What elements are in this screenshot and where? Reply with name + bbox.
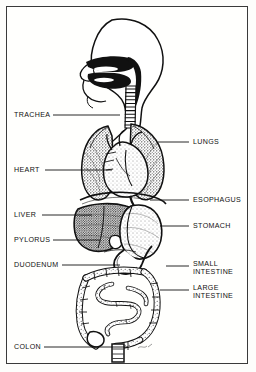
label-duodenum: DUODENUM — [14, 261, 59, 269]
label-esophagus: ESOPHAGUS — [193, 196, 241, 204]
label-large-intestine: LARGE INTESTINE — [193, 284, 233, 301]
head-profile — [80, 19, 163, 126]
label-liver: LIVER — [14, 211, 36, 219]
label-heart: HEART — [14, 166, 40, 174]
label-trachea: TRACHEA — [14, 111, 50, 119]
label-pylorus: PYLORUS — [14, 236, 50, 244]
small-intestine — [98, 284, 147, 334]
artist-signature — [138, 344, 152, 348]
figure-page: TRACHEAHEARTLIVERPYLORUSDUODENUMCOLONLUN… — [0, 0, 256, 372]
anatomy-illustration — [0, 0, 256, 372]
stomach — [120, 205, 162, 259]
large-intestine — [79, 268, 160, 362]
label-colon: COLON — [14, 343, 41, 351]
label-stomach: STOMACH — [193, 222, 231, 230]
label-small-intestine: SMALL INTESTINE — [193, 260, 233, 277]
label-lungs: LUNGS — [193, 138, 219, 146]
